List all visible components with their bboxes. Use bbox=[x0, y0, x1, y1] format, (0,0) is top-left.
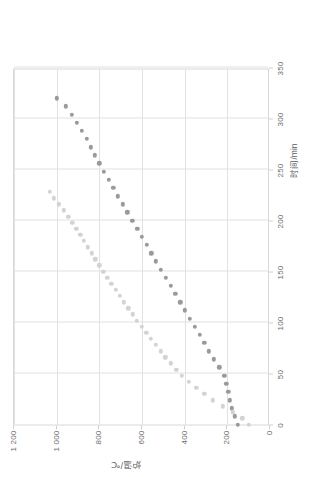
data-point bbox=[211, 397, 215, 401]
x-tick-label: 100 bbox=[276, 316, 285, 330]
x-tick-label: 50 bbox=[276, 369, 285, 378]
data-point bbox=[174, 367, 178, 371]
data-point bbox=[126, 306, 130, 310]
y-tick-label: 0 bbox=[265, 430, 274, 463]
data-point bbox=[180, 373, 184, 377]
data-point bbox=[66, 214, 70, 218]
series-b-points bbox=[14, 69, 268, 424]
data-point bbox=[163, 354, 167, 358]
data-point bbox=[240, 416, 244, 420]
x-tick-label: 250 bbox=[276, 163, 285, 177]
data-point bbox=[48, 189, 52, 193]
x-tick-mark bbox=[269, 373, 273, 374]
data-point bbox=[220, 403, 224, 407]
data-point bbox=[202, 391, 206, 395]
data-point bbox=[97, 263, 101, 267]
x-tick-label: 300 bbox=[276, 112, 285, 126]
data-point bbox=[82, 238, 86, 242]
data-point bbox=[149, 336, 153, 340]
data-point bbox=[168, 361, 172, 365]
chart-canvas: 050100150200250300350 02004006008001 000… bbox=[0, 0, 318, 477]
data-point bbox=[130, 312, 134, 316]
data-point bbox=[144, 330, 148, 334]
data-point bbox=[158, 348, 162, 352]
data-point bbox=[246, 422, 250, 426]
x-tick-mark bbox=[269, 271, 273, 272]
data-point bbox=[101, 269, 105, 273]
data-point bbox=[78, 232, 82, 236]
x-tick-label: 350 bbox=[276, 61, 285, 75]
data-point bbox=[153, 342, 157, 346]
x-tick-mark bbox=[269, 322, 273, 323]
y-tick-label: 1 000 bbox=[51, 430, 60, 463]
data-point bbox=[117, 293, 121, 297]
data-point bbox=[105, 275, 109, 279]
x-tick-label: 0 bbox=[276, 423, 285, 428]
y-axis-title: 炉温/℃ bbox=[111, 459, 141, 471]
y-tick-label: 600 bbox=[137, 430, 146, 463]
x-tick-mark bbox=[269, 220, 273, 221]
x-tick-mark bbox=[269, 118, 273, 119]
data-point bbox=[52, 195, 56, 199]
y-tick-mark bbox=[98, 425, 99, 429]
data-point bbox=[113, 287, 117, 291]
data-point bbox=[135, 318, 139, 322]
plot-area bbox=[13, 68, 269, 425]
data-point bbox=[230, 410, 234, 414]
gridline-vertical bbox=[14, 66, 268, 67]
data-point bbox=[86, 244, 90, 248]
data-point bbox=[194, 385, 198, 389]
y-tick-mark bbox=[226, 425, 227, 429]
y-tick-label: 800 bbox=[94, 430, 103, 463]
data-point bbox=[62, 208, 66, 212]
y-tick-mark bbox=[269, 425, 270, 429]
data-point bbox=[57, 201, 61, 205]
y-tick-mark bbox=[184, 425, 185, 429]
x-tick-mark bbox=[269, 169, 273, 170]
y-tick-mark bbox=[56, 425, 57, 429]
y-tick-label: 200 bbox=[222, 430, 231, 463]
data-point bbox=[109, 281, 113, 285]
data-point bbox=[93, 257, 97, 261]
data-point bbox=[70, 220, 74, 224]
data-point bbox=[122, 299, 126, 303]
x-axis-title: 时间/min bbox=[287, 143, 299, 177]
data-point bbox=[139, 324, 143, 328]
x-tick-label: 200 bbox=[276, 214, 285, 228]
data-point bbox=[74, 226, 78, 230]
data-point bbox=[89, 250, 93, 254]
x-tick-label: 150 bbox=[276, 265, 285, 279]
chart-figure: 050100150200250300350 02004006008001 000… bbox=[0, 0, 318, 477]
y-tick-mark bbox=[141, 425, 142, 429]
y-tick-label: 1 200 bbox=[9, 430, 18, 463]
y-tick-mark bbox=[13, 425, 14, 429]
y-tick-label: 400 bbox=[179, 430, 188, 463]
data-point bbox=[187, 379, 191, 383]
x-tick-mark bbox=[269, 67, 273, 68]
